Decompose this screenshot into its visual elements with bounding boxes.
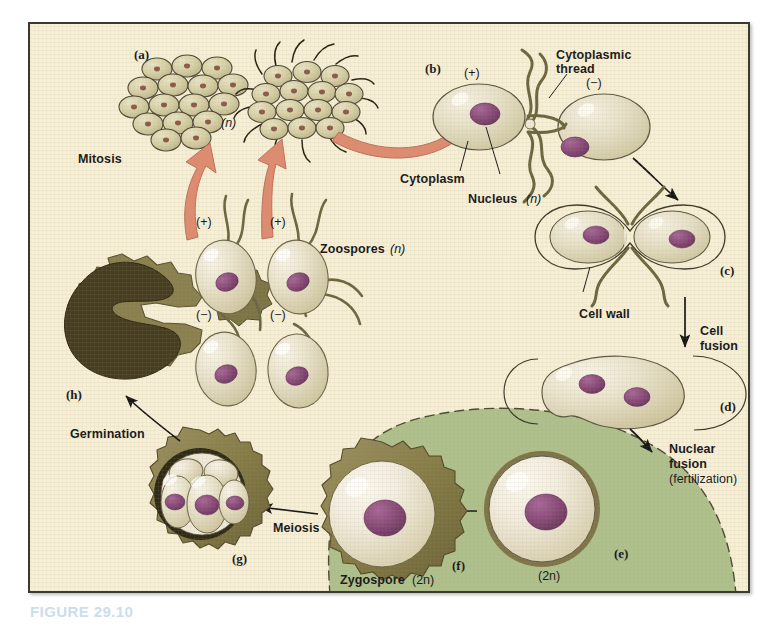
- label-cell-wall: Cell wall: [579, 307, 630, 321]
- arrow-nuclear-fusion: [630, 429, 652, 452]
- mating-type-zoospore-bottom-right: (−): [270, 308, 286, 322]
- figure-page: (a) (b) (c) (d) (e) (f) (g) (h) Mitosis …: [0, 0, 778, 625]
- gamete-minus-cell: [558, 94, 650, 160]
- figure-caption: FIGURE 29.10: [30, 603, 133, 620]
- stage-d-fused-cell: [504, 356, 746, 430]
- label-mitosis: Mitosis: [78, 152, 122, 166]
- label-germination: Germination: [70, 427, 145, 441]
- label-zygospore-ploidy: (2n): [412, 573, 434, 587]
- label-cell-fusion-line1: Cell: [700, 324, 723, 338]
- discarded-wall-left: [504, 359, 538, 424]
- label-zoospores: Zoospores: [320, 242, 385, 256]
- mating-type-gamete-right: (−): [586, 76, 602, 90]
- panel-letter-a: (a): [134, 48, 149, 63]
- stage-g-four-cells: [149, 427, 273, 549]
- panel-letter-b: (b): [425, 62, 441, 77]
- gamete-plus-cell: [433, 84, 525, 150]
- stage-a-colony-left: [119, 55, 248, 151]
- label-nuclear-fusion-line3: (fertilization): [669, 472, 737, 486]
- illustration-layer: [30, 24, 750, 593]
- panel-letter-d: (d): [720, 400, 736, 415]
- label-cytoplasmic-thread-line2: thread: [556, 62, 595, 76]
- discarded-wall-right: [693, 356, 746, 430]
- panel-letter-f: (f): [452, 559, 465, 574]
- panel-letter-c: (c): [720, 264, 734, 279]
- label-meiosis: Meiosis: [273, 521, 320, 535]
- arrow-b-to-c: [633, 158, 678, 200]
- figure-plate: (a) (b) (c) (d) (e) (f) (g) (h) Mitosis …: [28, 22, 750, 593]
- stage-e-zygote: [484, 451, 600, 567]
- label-zoospores-ploidy: (n): [390, 242, 405, 256]
- mating-type-zoospore-bottom-left: (−): [196, 308, 212, 322]
- panel-letter-g: (g): [232, 552, 247, 567]
- mating-type-zoospore-top-left: (+): [196, 215, 212, 229]
- label-e-ploidy: (2n): [538, 569, 560, 583]
- label-colony-ploidy: (n): [221, 116, 236, 130]
- label-nucleus: Nucleus: [468, 192, 517, 206]
- stage-f-zygospore: [321, 438, 467, 581]
- panel-letter-h: (h): [66, 388, 82, 403]
- panel-letter-e: (e): [614, 547, 628, 562]
- zoospore-minus-bottom-left: [191, 328, 261, 410]
- germinating-contents: [65, 262, 181, 379]
- mating-type-zoospore-top-right: (+): [270, 215, 286, 229]
- label-zygospore: Zygospore: [340, 573, 405, 587]
- label-nucleus-ploidy: (n): [526, 192, 541, 206]
- label-cell-fusion-line2: fusion: [700, 339, 738, 353]
- label-cytoplasm: Cytoplasm: [400, 172, 465, 186]
- label-nuclear-fusion-line1: Nuclear: [669, 442, 716, 456]
- zoospore-minus-bottom-right: [264, 331, 331, 411]
- mating-type-gamete-left: (+): [464, 66, 480, 80]
- stage-c-pair: [535, 187, 725, 306]
- label-cytoplasmic-thread-line1: Cytoplasmic: [556, 48, 631, 62]
- label-nuclear-fusion-line2: fusion: [669, 457, 707, 471]
